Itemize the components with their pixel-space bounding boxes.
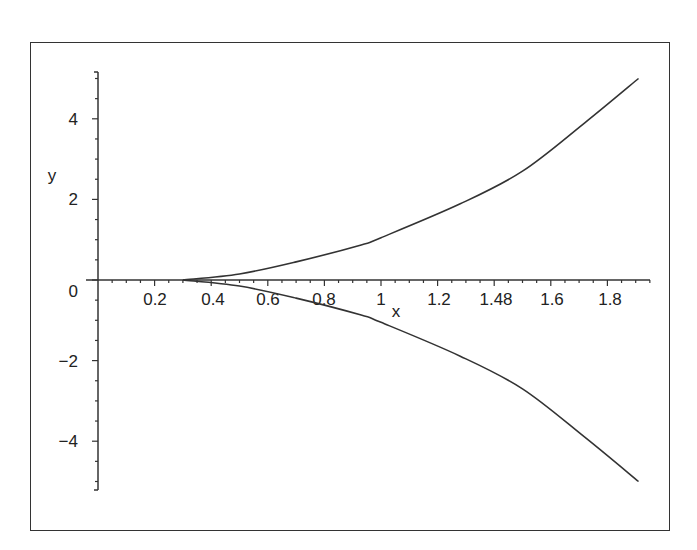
y-tick-label: 2: [69, 190, 78, 209]
x-tick-label: 1.8: [598, 290, 622, 309]
x-tick-label: 0.8: [312, 290, 336, 309]
x-axis-label: x: [392, 302, 401, 321]
x-tick-label: 0.2: [143, 290, 167, 309]
y-tick-label: −4: [59, 432, 78, 451]
y-tick-label: 0: [69, 282, 78, 301]
x-tick-label: 1.6: [540, 290, 564, 309]
y-axis-label: y: [48, 166, 57, 185]
plot-area: 0.2 0.4 0.6 0.8 1 1.2 1.48 1.6 1.8 x y 4…: [0, 0, 697, 550]
y-tick-label: 4: [69, 110, 78, 129]
upper-curve: [183, 79, 639, 281]
x-tick-label: 1: [376, 290, 385, 309]
x-tick-label: 0.4: [201, 290, 225, 309]
x-tick-label: 1.48: [479, 290, 512, 309]
x-tick-label: 1.2: [427, 290, 451, 309]
y-tick-label: −2: [59, 352, 78, 371]
lower-curve: [183, 280, 639, 482]
